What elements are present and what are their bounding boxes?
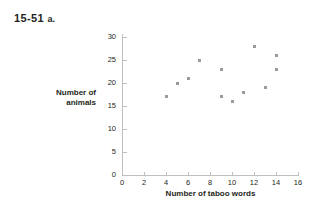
x-tick-label-12: 12: [244, 178, 264, 187]
x-tick-14: [276, 172, 277, 175]
x-axis-line: [122, 175, 299, 176]
x-axis-title: Number of taboo words: [122, 189, 299, 198]
y-tick-15: [123, 106, 127, 107]
y-tick-label-30: 30: [98, 32, 116, 41]
x-tick-6: [188, 172, 189, 175]
data-point: [253, 45, 256, 48]
figure-canvas: 15-51 a. 0246810121416 051015202530 Numb…: [0, 0, 317, 206]
y-tick-label-10: 10: [98, 124, 116, 133]
x-tick-8: [210, 172, 211, 175]
data-point: [231, 100, 234, 103]
data-point: [242, 91, 245, 94]
y-tick-30: [123, 37, 127, 38]
y-tick-20: [123, 83, 127, 84]
data-point: [275, 54, 278, 57]
scatter-plot: 0246810121416 051015202530 Number of tab…: [0, 0, 317, 206]
data-point: [176, 82, 179, 85]
y-tick-0: [123, 175, 127, 176]
y-tick-label-5: 5: [98, 147, 116, 156]
x-tick-label-0: 0: [112, 178, 132, 187]
data-point: [165, 95, 168, 98]
data-point: [275, 68, 278, 71]
x-tick-12: [254, 172, 255, 175]
y-tick-25: [123, 60, 127, 61]
y-tick-5: [123, 152, 127, 153]
x-tick-16: [298, 172, 299, 175]
x-tick-2: [144, 172, 145, 175]
x-tick-label-8: 8: [200, 178, 220, 187]
y-tick-label-0: 0: [98, 170, 116, 179]
y-axis-title: Number of animals: [34, 88, 96, 108]
x-tick-4: [166, 172, 167, 175]
x-tick-label-14: 14: [266, 178, 286, 187]
y-axis-title-line-1: Number of: [34, 88, 96, 98]
x-tick-label-6: 6: [178, 178, 198, 187]
data-point: [220, 68, 223, 71]
data-point: [220, 95, 223, 98]
data-point: [198, 59, 201, 62]
x-tick-10: [232, 172, 233, 175]
data-point: [187, 77, 190, 80]
y-tick-label-15: 15: [98, 101, 116, 110]
y-axis-line: [122, 34, 123, 176]
y-tick-label-25: 25: [98, 55, 116, 64]
data-point: [264, 86, 267, 89]
x-tick-label-16: 16: [288, 178, 308, 187]
x-tick-label-10: 10: [222, 178, 242, 187]
x-tick-label-4: 4: [156, 178, 176, 187]
x-tick-label-2: 2: [134, 178, 154, 187]
y-tick-label-20: 20: [98, 78, 116, 87]
y-tick-10: [123, 129, 127, 130]
y-axis-title-line-2: animals: [34, 98, 96, 108]
